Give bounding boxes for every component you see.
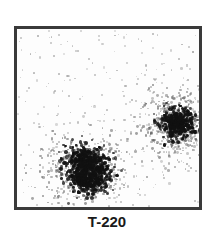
- event-dot: [182, 150, 184, 152]
- event-dot: [92, 62, 94, 64]
- event-dot: [163, 139, 165, 141]
- event-dot: [88, 193, 90, 195]
- event-dot: [134, 163, 136, 165]
- event-dot: [50, 155, 52, 157]
- event-dot: [118, 34, 119, 35]
- event-dot: [66, 198, 68, 200]
- event-dot: [67, 187, 69, 189]
- event-dot: [121, 79, 123, 81]
- event-dot: [141, 165, 143, 167]
- event-dot: [183, 134, 185, 136]
- event-dot: [163, 177, 165, 179]
- event-dot: [146, 69, 147, 70]
- event-dot: [190, 167, 192, 169]
- dot-plot-frame: [14, 26, 202, 210]
- event-dot: [65, 155, 68, 158]
- event-dot: [177, 127, 179, 129]
- event-dot: [123, 160, 125, 162]
- event-dot: [57, 187, 59, 189]
- event-dot: [123, 176, 126, 179]
- event-dot: [70, 175, 73, 178]
- event-dot: [114, 51, 115, 52]
- event-dot: [116, 148, 118, 150]
- event-dot: [151, 160, 153, 162]
- event-dot: [72, 186, 75, 189]
- event-dot: [141, 160, 143, 162]
- event-dot: [109, 186, 112, 189]
- event-dot: [80, 199, 82, 201]
- event-dot: [183, 96, 186, 99]
- event-dot: [89, 124, 92, 127]
- event-dot: [50, 42, 51, 43]
- event-dot: [43, 106, 45, 108]
- event-dot: [161, 53, 163, 55]
- event-dot: [158, 123, 161, 126]
- event-dot: [64, 80, 65, 81]
- event-dot: [101, 94, 103, 96]
- event-dot: [48, 162, 50, 164]
- event-dot: [70, 112, 71, 113]
- event-dot: [105, 175, 108, 178]
- event-dot: [180, 97, 182, 99]
- event-dot: [99, 188, 103, 192]
- event-dot: [58, 105, 59, 106]
- event-dot: [188, 112, 192, 116]
- event-dot: [39, 164, 41, 166]
- event-dot: [99, 120, 101, 122]
- event-dot: [72, 151, 75, 154]
- event-dot: [160, 160, 163, 163]
- event-dot: [174, 131, 177, 134]
- event-dot: [180, 153, 182, 155]
- event-dot: [177, 109, 180, 112]
- event-dot: [141, 52, 143, 54]
- event-dot: [69, 79, 71, 81]
- event-dot: [50, 176, 53, 179]
- event-dot: [103, 144, 105, 146]
- event-dot: [139, 189, 140, 190]
- event-dot: [153, 91, 155, 93]
- event-dot: [162, 136, 164, 138]
- event-dot: [82, 96, 83, 97]
- event-dot: [118, 150, 120, 152]
- event-dot: [139, 124, 141, 126]
- event-dot: [51, 203, 53, 205]
- event-dot: [85, 196, 89, 200]
- event-dot: [91, 106, 92, 107]
- event-dot: [81, 135, 83, 137]
- event-dot: [145, 134, 148, 137]
- event-dot: [42, 195, 44, 197]
- event-dot: [163, 63, 164, 64]
- event-dot: [77, 155, 80, 158]
- event-dot: [127, 185, 129, 187]
- event-dot: [187, 95, 189, 97]
- event-dot: [94, 74, 96, 76]
- event-dot: [199, 136, 202, 139]
- event-dot: [187, 88, 189, 90]
- event-dot: [116, 144, 118, 146]
- event-dot: [136, 76, 137, 77]
- event-dot: [182, 147, 184, 149]
- event-dot: [108, 143, 111, 146]
- event-dot: [161, 132, 163, 134]
- event-dot: [104, 114, 105, 115]
- event-dot: [63, 190, 66, 193]
- event-dot: [47, 170, 50, 173]
- event-dot: [167, 131, 170, 134]
- event-dot: [109, 78, 111, 80]
- event-dot: [159, 143, 161, 145]
- event-dot: [77, 50, 79, 52]
- event-dot: [124, 130, 126, 132]
- event-dot: [90, 196, 93, 199]
- event-dot: [151, 100, 154, 103]
- event-dot: [182, 122, 184, 124]
- event-dot: [67, 41, 68, 42]
- event-dot: [109, 147, 112, 150]
- event-dot: [94, 196, 97, 199]
- event-dot: [157, 152, 159, 154]
- event-dot: [122, 91, 124, 93]
- event-dot: [39, 170, 41, 172]
- event-dot: [106, 72, 107, 73]
- event-dot: [124, 45, 126, 47]
- event-dot: [175, 137, 178, 140]
- event-dot: [102, 127, 104, 129]
